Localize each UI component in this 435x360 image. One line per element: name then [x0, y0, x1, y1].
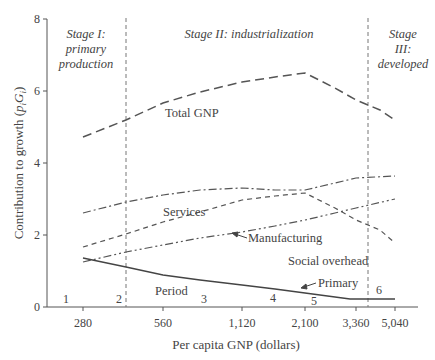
label-period: Period — [155, 284, 188, 298]
stage-3-label: Stage — [389, 27, 417, 41]
stage-1-label: production — [58, 57, 113, 71]
arrow-primary — [301, 283, 316, 289]
label-manufacturing: Manufacturing — [248, 231, 323, 245]
x-axis-label: Per capita GNP (dollars) — [172, 337, 300, 352]
y-tick-label: 2 — [34, 228, 40, 242]
x-tick-label: 5,040 — [382, 316, 409, 330]
x-tick-label: 280 — [74, 316, 92, 330]
series-services — [83, 176, 395, 213]
x-tick-label: 2,100 — [292, 316, 319, 330]
period-number: 2 — [116, 292, 122, 306]
series-total-gnp — [83, 73, 395, 137]
x-ticks: 280 560 1,120 2,100 3,360 5,040 — [74, 307, 409, 330]
y-axis-label: Contribution to growth (piGi) — [11, 87, 28, 240]
chart: 8 6 4 2 0 280 560 1,120 2,100 3,360 5,04… — [0, 0, 435, 360]
label-services: Services — [163, 205, 205, 219]
stage-3-label: developed — [378, 57, 429, 71]
period-number: 1 — [63, 292, 69, 306]
label-total-gnp: Total GNP — [165, 106, 219, 120]
x-tick-label: 1,120 — [229, 316, 256, 330]
period-number: 4 — [270, 291, 276, 305]
x-tick-label: 560 — [154, 316, 172, 330]
stage-1-label: primary — [65, 42, 107, 56]
stage-1-label: Stage I: — [66, 27, 105, 41]
label-social-overhead: Social overhead — [288, 254, 369, 268]
y-tick-label: 8 — [34, 12, 40, 26]
stage-3-label: III: — [394, 42, 412, 56]
period-number: 3 — [201, 292, 207, 306]
y-tick-label: 4 — [34, 156, 40, 170]
series-social-overhead — [83, 199, 395, 262]
y-tick-label: 0 — [34, 300, 40, 314]
y-ticks: 8 6 4 2 0 — [34, 12, 47, 314]
period-number: 6 — [376, 283, 382, 297]
period-number: 5 — [311, 294, 317, 308]
y-tick-label: 6 — [34, 84, 40, 98]
label-primary: Primary — [318, 276, 359, 290]
stage-2-label: Stage II: industrialization — [184, 27, 313, 41]
x-tick-label: 3,360 — [343, 316, 370, 330]
